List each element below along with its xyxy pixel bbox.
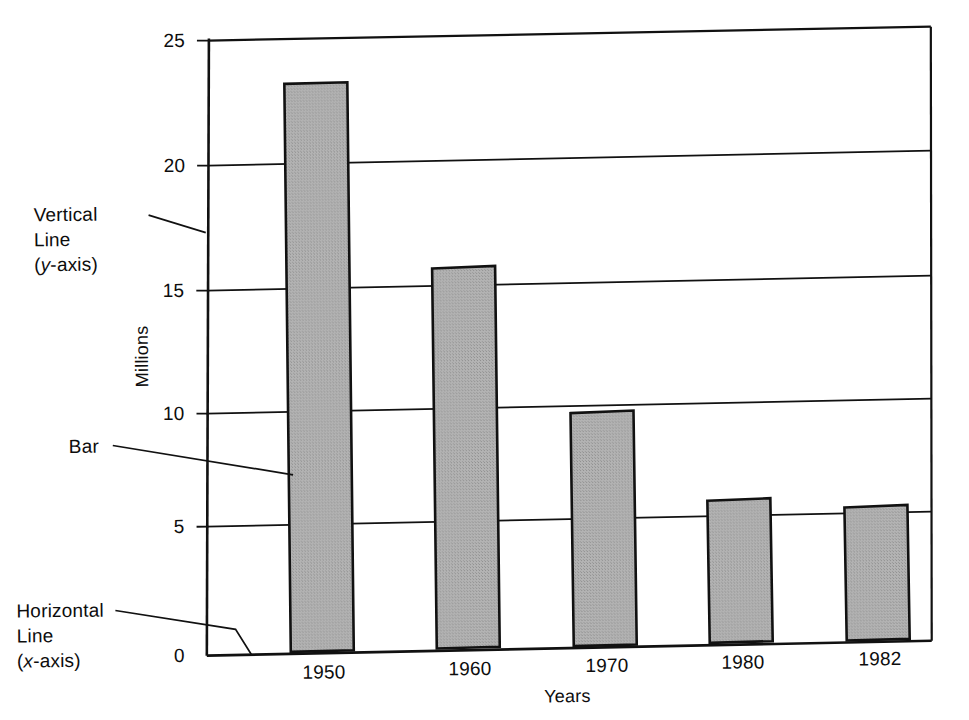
x-axis-callout-paren-close: -axis) (33, 650, 81, 671)
x-tick-label-1950: 1950 (279, 661, 369, 684)
y-axis-callout: Vertical Line (y-axis) (33, 202, 98, 278)
bar-1950 (284, 82, 353, 652)
gridline-25 (209, 27, 931, 41)
y-axis-callout-line2: Line (34, 227, 98, 253)
bar-1960 (432, 266, 500, 649)
y-tick-label-10: 10 (150, 403, 184, 425)
x-tick-label-1960: 1960 (425, 658, 515, 681)
x-axis-callout: Horizontal Line (x-axis) (16, 598, 104, 674)
x-axis-callout-var: x (23, 650, 33, 671)
y-axis-title: Millions (132, 326, 154, 388)
y-tick-label-5: 5 (150, 516, 184, 538)
x-axis-callout-line1: Horizontal (16, 598, 104, 624)
y-axis-callout-line3: (y-axis) (34, 252, 98, 278)
x-tick-label-1980: 1980 (698, 651, 788, 674)
x-tick-label-1982: 1982 (835, 648, 925, 671)
bar-1970 (570, 411, 636, 647)
y-axis-callout-paren-close: -axis) (50, 254, 98, 275)
x-axis-title: Years (544, 686, 591, 707)
y-axis-callout-line1: Vertical (33, 202, 97, 228)
y-tick-label-0: 0 (151, 645, 185, 667)
x-tick-label-1970: 1970 (562, 654, 652, 677)
bar-1982 (844, 505, 909, 641)
x-axis-callout-line2: Line (17, 623, 105, 649)
bar-callout-line1: Bar (69, 434, 99, 459)
y-tick-label-25: 25 (151, 30, 185, 52)
y-tick-label-20: 20 (151, 155, 185, 177)
y-axis-callout-leader (149, 215, 206, 234)
bar-1980 (707, 498, 772, 643)
y-tick-label-15: 15 (150, 280, 184, 302)
x-axis-callout-line3: (x-axis) (17, 648, 105, 674)
bar-callout-leader (113, 444, 293, 477)
y-axis-line (201, 39, 215, 656)
y-axis-callout-var: y (40, 254, 50, 275)
plot-right-edge (926, 27, 937, 641)
bar-callout: Bar (69, 434, 99, 459)
bar-chart-figure: 25 20 15 10 5 0 Millions 1950 1960 1970 … (0, 0, 969, 720)
